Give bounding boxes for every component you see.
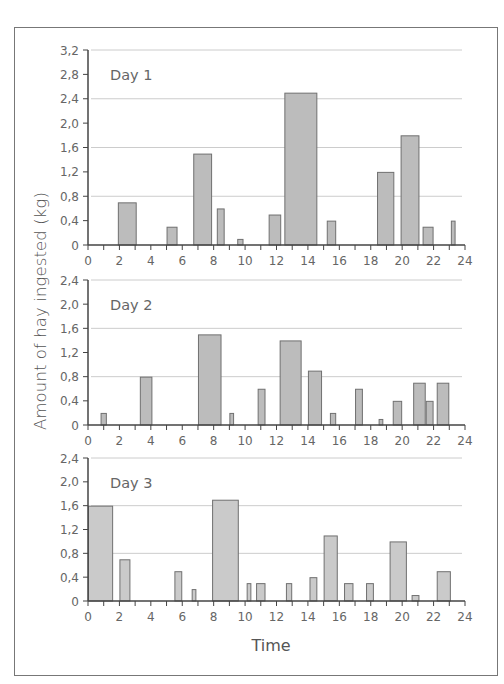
bar [175,572,182,601]
panel-title: Day 3 [110,475,152,491]
y-tick-label: 2,4 [60,452,79,466]
bar [412,596,419,601]
x-tick-label: 10 [237,610,252,624]
y-tick-label: 1,6 [60,499,79,513]
y-tick-label: 0,4 [60,571,79,585]
bar [257,584,265,601]
bar [390,542,406,601]
x-tick-label: 16 [332,610,347,624]
y-tick-label: 0 [71,595,79,609]
bar [286,584,291,601]
bar [213,500,239,601]
bar [247,584,251,601]
x-tick-label: 24 [457,610,472,624]
x-tick-label: 0 [84,610,92,624]
x-tick-label: 4 [147,610,155,624]
y-tick-label: 1,2 [60,523,79,537]
x-tick-label: 22 [426,610,441,624]
chart-day-3: 00,40,81,21,62,02,4024681012141618202224… [0,0,504,684]
y-tick-label: 2,0 [60,475,79,489]
x-tick-label: 2 [116,610,124,624]
y-tick-label: 0,8 [60,547,79,561]
bar [367,584,374,601]
bar [324,536,337,601]
bar [89,506,113,601]
x-tick-label: 14 [300,610,315,624]
bar [437,572,450,601]
bar [345,584,353,601]
x-tick-label: 18 [363,610,378,624]
x-tick-label: 8 [210,610,218,624]
bar [310,578,317,601]
x-tick-label: 12 [269,610,284,624]
bar [192,590,196,601]
bar [120,560,130,601]
x-tick-label: 6 [178,610,186,624]
x-tick-label: 20 [395,610,410,624]
